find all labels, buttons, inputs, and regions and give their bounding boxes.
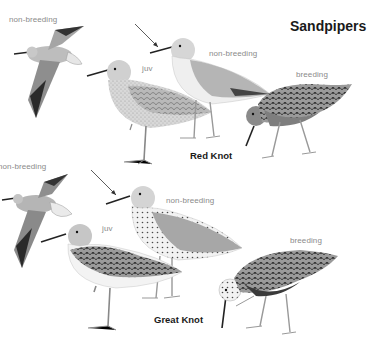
label-red-knot-juv: juv — [142, 64, 153, 73]
red-knot-flying-nonbreeding-bird — [14, 26, 84, 118]
label-great-knot-breeding: breeding — [290, 236, 322, 245]
species-name-red-knot: Red Knot — [190, 150, 232, 161]
bird-illustrations — [0, 0, 378, 363]
species-name-great-knot: Great Knot — [154, 314, 203, 325]
label-red-knot-nonbreeding: non-breeding — [209, 49, 257, 58]
page-title: Sandpipers — [290, 18, 366, 34]
label-red-knot-flying-nonbreeding: non-breeding — [9, 15, 57, 24]
label-red-knot-breeding: breeding — [296, 70, 328, 79]
great-knot-breeding-bird — [219, 250, 338, 334]
label-great-knot-nonbreeding: non-breeding — [166, 196, 214, 205]
great-knot-flying-nonbreeding-bird — [2, 174, 72, 268]
arrow-great-knot — [91, 170, 116, 195]
field-guide-page: Sandpipers non-breeding juv non-breeding… — [0, 0, 378, 363]
label-great-knot-juv: juv — [102, 224, 113, 233]
label-great-knot-flying-nonbreeding: non-breeding — [0, 162, 46, 171]
